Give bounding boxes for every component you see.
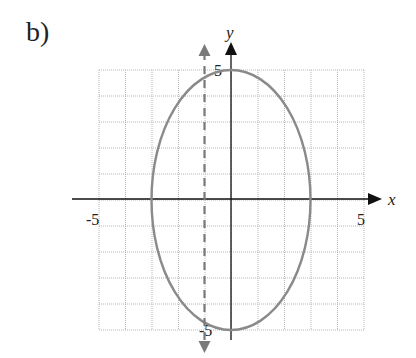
x-axis-arrow-icon	[368, 193, 382, 205]
x-axis-label: x	[387, 190, 396, 209]
x-tick-5: 5	[357, 211, 365, 228]
dashed-line-down-arrow-icon	[199, 341, 211, 353]
y-axis-label: y	[224, 23, 234, 42]
chart: x y -5 5 5 -5	[0, 0, 416, 358]
y-axis-arrow-icon	[225, 42, 237, 55]
dashed-line-up-arrow-icon	[199, 44, 211, 56]
axes	[72, 42, 382, 340]
x-tick-neg5: -5	[86, 211, 99, 228]
